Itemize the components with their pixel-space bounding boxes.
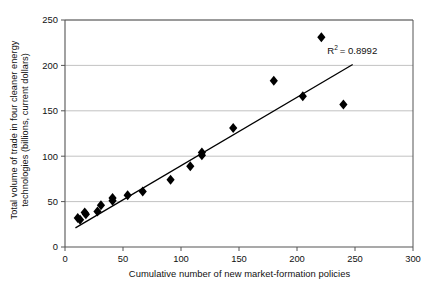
data-point-marker bbox=[186, 161, 194, 171]
data-point-marker bbox=[139, 187, 147, 197]
data-point-marker bbox=[339, 99, 347, 109]
y-tick-label-50: 50 bbox=[48, 196, 58, 207]
x-tick-label-150: 150 bbox=[231, 253, 247, 264]
x-axis-ticks-group: 050100150200250300 bbox=[62, 247, 420, 264]
x-tick-label-250: 250 bbox=[347, 253, 363, 264]
data-points-group bbox=[74, 32, 348, 225]
x-tick-label-100: 100 bbox=[173, 253, 189, 264]
data-point-marker bbox=[317, 32, 325, 42]
data-point-marker bbox=[270, 76, 278, 86]
y-tick-label-0: 0 bbox=[53, 241, 58, 252]
data-point-marker bbox=[166, 175, 174, 185]
y-tick-label-150: 150 bbox=[42, 105, 58, 116]
r-squared-exponent: 2 bbox=[334, 44, 338, 51]
r-squared-value: = 0.8992 bbox=[340, 45, 378, 56]
y-axis-ticks-group: 050100150200250 bbox=[42, 14, 65, 252]
x-tick-label-300: 300 bbox=[405, 253, 421, 264]
y-tick-label-250: 250 bbox=[42, 14, 58, 25]
r-squared-annotation: R2= 0.8992 bbox=[327, 44, 377, 56]
x-tick-label-50: 50 bbox=[118, 253, 128, 264]
x-tick-label-200: 200 bbox=[289, 253, 305, 264]
scatter-chart-figure: Total volume of trade in four cleaner en… bbox=[0, 0, 437, 290]
trendline-group bbox=[75, 64, 352, 227]
y-tick-label-200: 200 bbox=[42, 60, 58, 71]
data-point-marker bbox=[229, 123, 237, 133]
y-tick-label-100: 100 bbox=[42, 151, 58, 162]
x-axis-label: Cumulative number of new market-formatio… bbox=[65, 268, 414, 279]
r-squared-symbol: R bbox=[327, 45, 334, 56]
x-tick-label-0: 0 bbox=[62, 253, 67, 264]
trendline bbox=[75, 64, 352, 227]
plot-area-svg: 050100150200250 050100150200250300 R2= 0… bbox=[0, 0, 437, 290]
